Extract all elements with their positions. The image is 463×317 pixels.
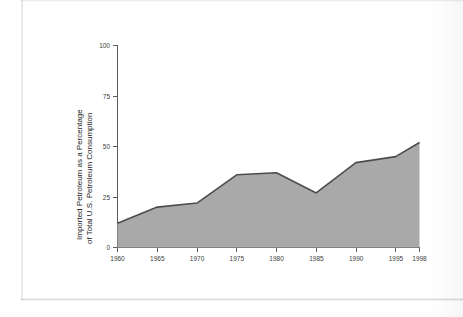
y-axis-title-line-2: of Total U.S. Petroleum Consumption (85, 113, 94, 244)
x-tick-label-1985: 1985 (309, 255, 324, 262)
x-tick-group (118, 248, 420, 253)
x-tick-label-1975: 1975 (230, 255, 245, 262)
y-tick-label-25: 25 (103, 194, 111, 201)
x-tick-label-1995: 1995 (389, 255, 404, 262)
x-tick-label-1990: 1990 (349, 255, 364, 262)
y-tick-label-100: 100 (99, 42, 110, 49)
x-tick-label-1998: 1998 (412, 255, 427, 262)
y-tick-group (113, 46, 118, 248)
x-tick-label-1970: 1970 (190, 255, 205, 262)
y-tick-label-75: 75 (103, 93, 111, 100)
y-tick-label-0: 0 (106, 244, 110, 251)
y-axis-title-line-1: Imported Petroleum as a Percentage (75, 109, 84, 240)
series-area-fill (118, 142, 420, 247)
area-chart-figure: Imported Petroleum as a Percentage of To… (0, 0, 463, 317)
x-tick-label-1965: 1965 (150, 255, 165, 262)
x-tick-label-1960: 1960 (110, 255, 125, 262)
x-tick-label-1980: 1980 (269, 255, 284, 262)
screenshot-root: Imported Petroleum as a Percentage of To… (0, 0, 463, 317)
y-tick-label-50: 50 (103, 143, 111, 150)
area-chart-svg: Imported Petroleum as a Percentage of To… (0, 0, 463, 317)
